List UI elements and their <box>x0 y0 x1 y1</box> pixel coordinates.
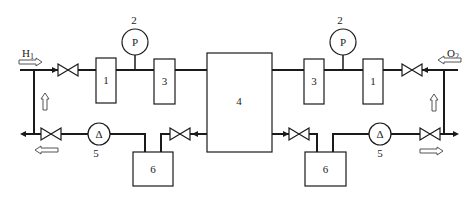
flow-arrowhead-icon <box>453 131 459 137</box>
tank-6-right[interactable]: 6 <box>305 152 346 186</box>
valve-left-top-icon[interactable] <box>58 64 78 76</box>
flowmeter-left[interactable]: Δ <box>88 123 110 145</box>
pressure-gauge-right-label: 2 <box>337 14 343 26</box>
component-1-left[interactable]: 1 <box>96 58 116 103</box>
central-unit-4-label: 4 <box>236 95 242 107</box>
pressure-gauge-left[interactable]: P <box>122 29 148 55</box>
component-1-right[interactable]: 1 <box>363 59 383 104</box>
pressure-gauge-right-symbol: P <box>340 36 346 48</box>
central-unit-4[interactable]: 4 <box>207 53 272 152</box>
inlet-left-gas-label: H1 <box>22 47 34 61</box>
right-branch: 3 P 2 1 6 Δ 5 <box>272 14 461 186</box>
flowmeter-right-symbol: Δ <box>376 128 383 140</box>
process-diagram: 1 P 2 3 Δ 5 <box>0 0 475 202</box>
flow-arrowhead-icon <box>20 131 26 137</box>
pressure-gauge-left-label: 2 <box>131 14 137 26</box>
pressure-gauge-left-symbol: P <box>132 36 138 48</box>
pipe-tank-to-valve-left <box>161 134 170 152</box>
component-3-right[interactable]: 3 <box>304 59 324 104</box>
component-1-right-label: 1 <box>370 75 376 87</box>
pipe-tank-to-flowmeter-right <box>333 134 369 152</box>
flow-arrowhead-icon <box>422 67 428 73</box>
tank-6-left[interactable]: 6 <box>133 152 173 186</box>
flow-arrow-right-icon <box>420 147 443 155</box>
flowmeter-left-symbol: Δ <box>95 128 102 140</box>
flowmeter-right[interactable]: Δ <box>369 123 391 145</box>
flow-arrowhead-icon <box>192 131 198 137</box>
flow-arrow-left-icon <box>35 146 58 154</box>
valve-left-return-icon[interactable] <box>170 128 190 140</box>
valve-right-return-icon[interactable] <box>289 128 309 140</box>
pressure-gauge-right[interactable]: P <box>330 29 356 55</box>
valve-left-bottom-icon[interactable] <box>41 128 61 140</box>
left-branch: 1 P 2 3 Δ 5 <box>19 14 207 186</box>
flow-arrowhead-icon <box>52 67 58 73</box>
valve-right-top-icon[interactable] <box>402 64 422 76</box>
flowmeter-left-label: 5 <box>93 147 99 159</box>
component-3-left-label: 3 <box>162 75 168 87</box>
tank-6-right-label: 6 <box>323 163 329 175</box>
component-3-left[interactable]: 3 <box>154 59 175 104</box>
valve-right-bottom-icon[interactable] <box>420 128 440 140</box>
pipe-valve-to-tank-right <box>309 134 317 152</box>
tank-6-left-label: 6 <box>150 163 156 175</box>
flow-arrowhead-icon <box>283 131 289 137</box>
pipe-flowmeter-to-tank-left <box>110 134 145 152</box>
component-1-left-label: 1 <box>103 74 109 86</box>
flow-arrow-up-icon <box>430 94 438 111</box>
flow-arrow-up-icon <box>41 93 49 110</box>
component-3-right-label: 3 <box>311 75 317 87</box>
flowmeter-right-label: 5 <box>377 147 383 159</box>
